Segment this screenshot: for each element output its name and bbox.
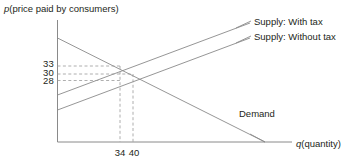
y-axis-label-text: (price paid by consumers) xyxy=(9,3,118,14)
supply-with-tax-line xyxy=(58,23,251,95)
supply-with-tax-leader-line xyxy=(236,21,251,28)
demand-line xyxy=(58,38,266,142)
x-axis-label: q(quantity) xyxy=(296,139,341,149)
y-axis-tick-labels: 33 30 28 xyxy=(26,58,54,90)
supply-without-tax-leader-line xyxy=(236,36,251,43)
demand-leader-line xyxy=(250,134,265,142)
legend-supply-with-tax: Supply: With tax xyxy=(254,17,323,27)
supply-demand-chart: p(price paid by consumers) q(quantity) S… xyxy=(0,0,355,165)
legend-supply-without-tax: Supply: Without tax xyxy=(254,32,336,42)
x-tick-label-40: 40 xyxy=(124,147,144,158)
legend-demand: Demand xyxy=(239,109,275,119)
y-axis-label: p(price paid by consumers) xyxy=(4,4,119,14)
y-tick-label-28: 28 xyxy=(43,75,54,86)
x-axis-label-text: (quantity) xyxy=(301,138,341,149)
